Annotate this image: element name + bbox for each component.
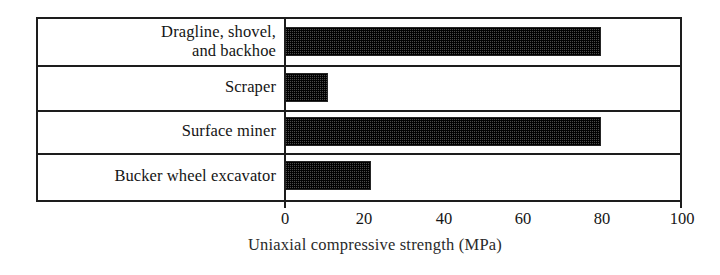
bar-surface-miner [284,117,601,146]
category-label: Bucker wheel excavator [38,167,284,185]
bar-bucker-wheel-excavator [284,161,371,190]
bar-track [284,65,680,110]
axis-title: Uniaxial compressive strength (MPa) [0,235,720,255]
plot-frame: Dragline, shovel, and backhoe Scraper Su… [36,17,682,202]
bar-chart: Dragline, shovel, and backhoe Scraper Su… [0,0,720,275]
bar-track [284,19,680,65]
category-label-line2: and backhoe [38,42,276,61]
chart-row: Bucker wheel excavator [38,153,680,200]
chart-row: Dragline, shovel, and backhoe [38,19,680,65]
category-label-line1: Scraper [38,78,276,96]
category-axis-line [284,17,286,202]
axis-title-text: Uniaxial compressive strength (MPa) [218,235,502,255]
category-label-line1: Surface miner [38,122,276,140]
category-label-line1: Dragline, shovel, [38,23,276,42]
axis-tick-0 [284,202,286,208]
category-label: Surface miner [38,122,284,140]
axis-tick-label-60: 60 [515,209,532,229]
bar-track [284,153,680,200]
category-label: Scraper [38,78,284,96]
category-label: Dragline, shovel, and backhoe [38,23,284,61]
axis-tick-label-100: 100 [670,209,695,229]
bar-scraper [284,73,328,102]
axis-tick-label-40: 40 [436,209,453,229]
chart-row: Surface miner [38,110,680,153]
category-label-line1: Bucker wheel excavator [38,167,276,185]
bar-dragline-shovel-backhoe [284,27,601,56]
axis-tick-100 [680,202,682,208]
chart-row: Scraper [38,65,680,110]
axis-tick-label-20: 20 [356,209,373,229]
axis-tick-label-0: 0 [281,209,289,229]
bar-track [284,110,680,153]
axis-tick-label-80: 80 [594,209,611,229]
